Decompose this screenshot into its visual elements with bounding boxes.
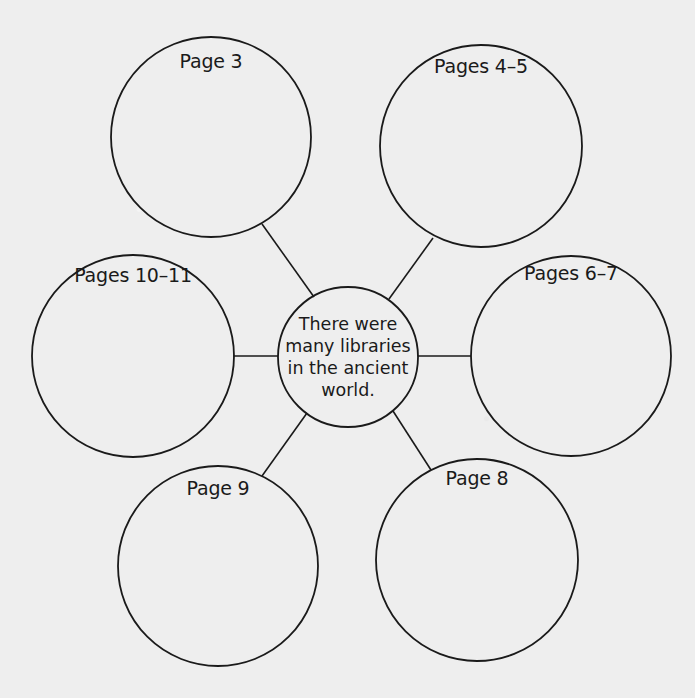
main-idea-text: There were many libraries in the ancient…	[273, 313, 423, 401]
spoke-line-pages-4-5	[389, 238, 433, 299]
worksheet-page: Page 3Pages 4–5Pages 6–7Page 8Page 9Page…	[0, 0, 695, 698]
detail-circle-pages-6-7	[471, 256, 671, 456]
spoke-line-page-8	[393, 411, 431, 470]
detail-label-page-9: Page 9	[187, 477, 250, 499]
spoke-line-page-9	[262, 413, 307, 476]
detail-label-page-3: Page 3	[180, 50, 243, 72]
main-idea-line: in the ancient	[273, 357, 423, 379]
main-idea-line: world.	[273, 379, 423, 401]
detail-circle-page-8	[376, 459, 578, 661]
detail-label-pages-4-5: Pages 4–5	[434, 55, 528, 77]
detail-label-page-8: Page 8	[446, 467, 509, 489]
main-idea-line: many libraries	[273, 335, 423, 357]
detail-label-pages-6-7: Pages 6–7	[524, 262, 618, 284]
detail-label-pages-10-11: Pages 10–11	[74, 264, 192, 286]
spoke-line-page-3	[262, 224, 314, 297]
main-idea-line: There were	[273, 313, 423, 335]
